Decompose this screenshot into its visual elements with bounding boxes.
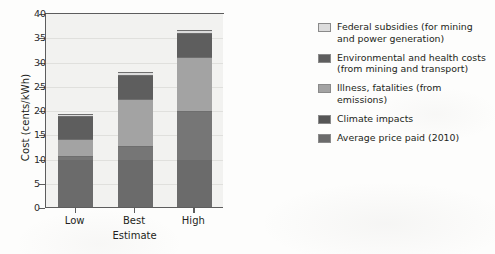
legend-swatch-icon [318, 134, 331, 143]
legend-label: Climate impacts [337, 113, 413, 125]
bar-segment [177, 160, 212, 207]
legend-item: Climate impacts [318, 113, 490, 125]
y-tick-label: 15 [34, 131, 39, 141]
bar-segment [58, 114, 93, 115]
bar-high [177, 30, 212, 207]
legend-swatch-icon [318, 115, 331, 124]
bar-best [118, 72, 153, 207]
bar-segment [58, 116, 93, 139]
y-tick-label: 5 [34, 179, 39, 189]
legend-swatch-icon [318, 54, 331, 63]
bar-segment [58, 139, 93, 156]
chart-legend: Federal subsidies (for mining and power … [318, 21, 490, 151]
y-tick-label: 20 [34, 106, 39, 116]
bar-segment [118, 75, 153, 99]
chart-figure: Cost (cents/kWh) 0510152025303540 LowBes… [0, 0, 495, 254]
x-tick [134, 208, 135, 213]
bar-segment [177, 33, 212, 56]
plot-area [45, 14, 223, 208]
bar-low [58, 114, 93, 207]
legend-label: Federal subsidies (for mining and power … [337, 21, 490, 44]
y-tick-label: 25 [34, 82, 39, 92]
y-axis-title: Cost (cents/kWh) [20, 43, 31, 193]
x-tick-label: Low [65, 215, 85, 226]
bar-segment [58, 160, 93, 207]
y-tick-label: 0 [34, 203, 39, 213]
x-axis-title: Estimate [45, 230, 224, 241]
bar-segment [118, 160, 153, 207]
x-tick [193, 208, 194, 213]
legend-label: Environmental and health costs (from min… [337, 52, 490, 75]
bar-segment [177, 111, 212, 160]
legend-item: Environmental and health costs (from min… [318, 52, 490, 75]
y-tick-label: 40 [34, 9, 39, 19]
legend-item: Federal subsidies (for mining and power … [318, 21, 490, 44]
legend-swatch-icon [318, 23, 331, 32]
bar-segment [58, 156, 93, 160]
legend-label: Average price paid (2010) [337, 132, 459, 144]
bar-segment [177, 57, 212, 111]
x-tick-label: Best [123, 215, 145, 226]
bar-segment [118, 146, 153, 160]
y-tick-label: 35 [34, 34, 39, 44]
legend-swatch-icon [318, 84, 331, 93]
y-tick-label: 10 [34, 155, 39, 165]
legend-label: Illness, fatalities (from emissions) [337, 82, 490, 105]
legend-item: Average price paid (2010) [318, 132, 490, 144]
bar-segment [177, 30, 212, 33]
legend-item: Illness, fatalities (from emissions) [318, 82, 490, 105]
y-tick-label: 30 [34, 58, 39, 68]
bar-segment [118, 99, 153, 147]
x-tick [75, 208, 76, 213]
bar-segment [118, 72, 153, 75]
x-tick-label: High [182, 215, 205, 226]
